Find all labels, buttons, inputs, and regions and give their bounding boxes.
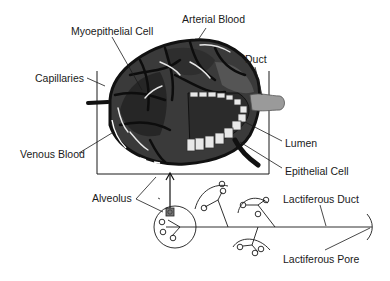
- label-lactiferous-pore: Lactiferous Pore: [283, 254, 359, 265]
- mammary-alveolus-diagram: Arterial Blood Myoepithelial Cell Duct C…: [0, 0, 390, 281]
- label-epithelial-cell: Epithelial Cell: [285, 166, 349, 177]
- diagram-illustration: [0, 0, 390, 281]
- label-myoepithelial-cell: Myoepithelial Cell: [71, 26, 153, 37]
- label-duct: Duct: [245, 54, 267, 65]
- magnify-arrow: [166, 173, 174, 216]
- label-lactiferous-duct: Lactiferous Duct: [283, 194, 359, 205]
- label-lumen: Lumen: [285, 138, 317, 149]
- label-capillaries: Capillaries: [35, 73, 84, 84]
- label-venous-blood: Venous Blood: [20, 149, 85, 160]
- label-alveolus: Alveolus: [92, 193, 132, 204]
- label-arterial-blood: Arterial Blood: [182, 14, 245, 25]
